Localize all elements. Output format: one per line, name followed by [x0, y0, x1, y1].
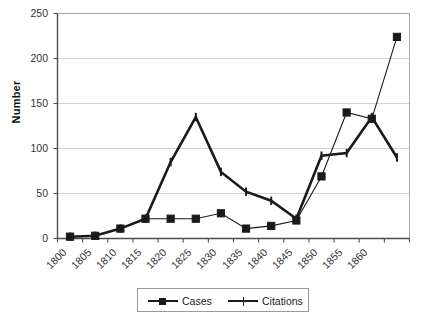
y-axis-tick-label: 0: [18, 233, 48, 244]
legend-label-citations: Citations: [262, 296, 303, 307]
data-series: [66, 33, 400, 241]
y-axis-tick-label: 150: [18, 98, 48, 109]
axis-ticks: [54, 14, 410, 243]
citations-marker-icon: [228, 295, 258, 307]
plot-frame: [58, 14, 410, 239]
cases-marker-icon: [148, 295, 178, 307]
y-axis-tick-label: 200: [18, 53, 48, 64]
y-axis-tick-label: 100: [18, 143, 48, 154]
legend-item-citations: Citations: [228, 293, 303, 309]
gridlines: [58, 14, 410, 194]
legend-label-cases: Cases: [182, 296, 212, 307]
legend-item-cases: Cases: [148, 293, 212, 309]
y-axis-tick-label: 250: [18, 8, 48, 19]
y-axis-tick-label: 50: [18, 188, 48, 199]
chart-container: Number 050100150200250 18001805181018151…: [0, 0, 424, 321]
chart-legend: Cases Citations: [137, 288, 309, 312]
